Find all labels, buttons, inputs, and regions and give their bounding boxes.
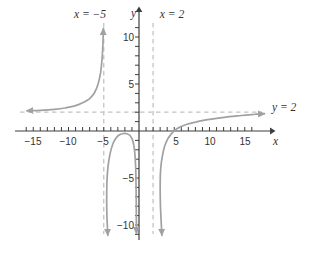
graph-canvas: x = −5 x = 2 y y = 2 x −15 −10 −5 5 10 1… bbox=[0, 0, 309, 254]
x-axis-tick-label: 5 bbox=[173, 136, 179, 147]
x-axis-label: x bbox=[272, 135, 279, 147]
curve-branches bbox=[27, 29, 265, 236]
y-axis-arrowhead bbox=[136, 7, 143, 13]
graph-figure: x = −5 x = 2 y y = 2 x −15 −10 −5 5 10 1… bbox=[0, 0, 309, 254]
horizontal-asymptote-label-y-2: y = 2 bbox=[271, 101, 297, 114]
curve-right-branch bbox=[160, 114, 264, 236]
x-axis-tick-label: −5 bbox=[97, 136, 109, 147]
y-axis-tick-label: −10 bbox=[117, 220, 134, 231]
y-axis-tick-label: 5 bbox=[128, 79, 134, 90]
x-axis-tick-label: −10 bbox=[60, 136, 77, 147]
y-axis-label: y bbox=[130, 7, 137, 20]
x-axis-arrowhead bbox=[270, 128, 276, 135]
asymptote-lines bbox=[20, 23, 262, 234]
curve-left-branch bbox=[27, 29, 104, 111]
axes bbox=[15, 7, 276, 241]
y-axis-tick-label: 10 bbox=[123, 32, 135, 43]
x-axis-tick-label: 10 bbox=[204, 136, 216, 147]
vertical-asymptote-label-x-neg5: x = −5 bbox=[73, 8, 106, 20]
x-axis-tick-label: 15 bbox=[239, 136, 251, 147]
x-axis-tick-label: −15 bbox=[25, 136, 42, 147]
vertical-asymptote-label-x-2: x = 2 bbox=[159, 8, 185, 20]
y-axis-tick-label: −5 bbox=[123, 173, 135, 184]
